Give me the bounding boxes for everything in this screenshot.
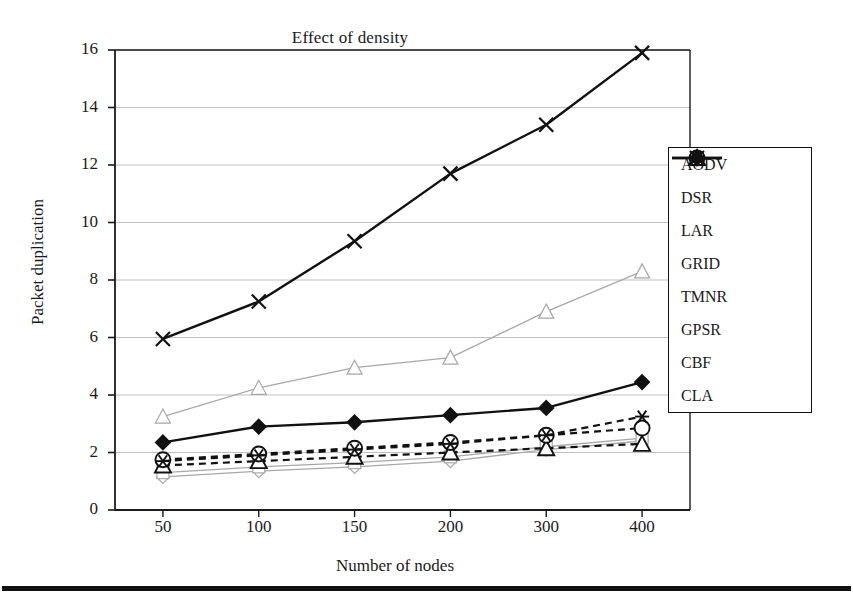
bottom-divider-rule — [2, 586, 851, 591]
marker-x-cross — [252, 295, 266, 309]
marker-x-cross — [348, 234, 362, 248]
marker-diamond-filled — [690, 151, 704, 165]
legend-item-gpsr[interactable]: GPSR — [669, 313, 811, 346]
marker-x-cross — [443, 167, 457, 181]
legend-item-cla[interactable]: CLA — [669, 379, 811, 412]
marker-diamond-filled — [443, 408, 457, 422]
legend-label-dsr: DSR — [681, 189, 712, 207]
marker-circle-open — [635, 421, 650, 436]
marker-x-cross — [635, 46, 649, 60]
marker-triangle-open — [539, 304, 554, 318]
legend-item-dsr[interactable]: DSR — [669, 181, 811, 214]
legend-label-gpsr: GPSR — [681, 321, 721, 339]
legend-item-tmnr[interactable]: TMNR — [669, 280, 811, 313]
marker-triangle-open — [635, 264, 650, 278]
marker-diamond-filled — [635, 375, 649, 389]
legend-label-lar: LAR — [681, 222, 713, 240]
legend-swatch-cla — [669, 148, 725, 168]
legend-label-cbf: CBF — [681, 354, 711, 372]
legend-label-tmnr: TMNR — [681, 288, 727, 306]
chart-legend: AODVDSRLARGRIDTMNRGPSRCBFCLA — [668, 147, 812, 413]
marker-diamond-filled — [156, 435, 170, 449]
marker-x-cross — [539, 118, 553, 132]
legend-item-grid[interactable]: GRID — [669, 247, 811, 280]
series-line-GRID — [163, 428, 642, 460]
marker-diamond-filled — [252, 420, 266, 434]
marker-diamond-filled — [539, 401, 553, 415]
series-line-CBF — [163, 53, 642, 339]
legend-item-cbf[interactable]: CBF — [669, 346, 811, 379]
legend-item-lar[interactable]: LAR — [669, 214, 811, 247]
marker-triangle-open — [155, 409, 170, 423]
legend-label-grid: GRID — [681, 255, 720, 273]
legend-label-cla: CLA — [681, 387, 713, 405]
marker-x-cross — [156, 332, 170, 346]
marker-diamond-filled — [348, 415, 362, 429]
marker-triangle-open — [443, 350, 458, 364]
chart-figure: Effect of density Packet duplication Num… — [0, 0, 853, 605]
